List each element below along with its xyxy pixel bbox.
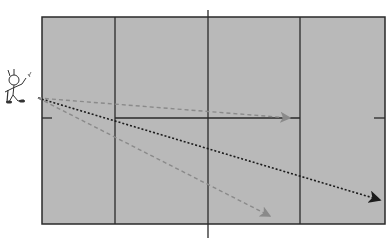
- court-surface: [42, 17, 385, 224]
- court: [42, 10, 385, 238]
- court-svg: [0, 0, 391, 242]
- court-diagram: [0, 0, 391, 242]
- player-figure-icon: [5, 69, 31, 104]
